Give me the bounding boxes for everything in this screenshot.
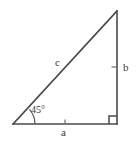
triangle-side-c-line xyxy=(13,11,117,124)
angle-label-45: 45° xyxy=(31,105,45,115)
right-angle-marker-icon xyxy=(109,116,117,124)
triangle-diagram: a b c 45° xyxy=(0,0,136,142)
triangle-figure-svg xyxy=(0,0,136,142)
side-label-c: c xyxy=(55,57,60,68)
side-label-b: b xyxy=(123,62,129,73)
side-label-a: a xyxy=(61,127,66,138)
